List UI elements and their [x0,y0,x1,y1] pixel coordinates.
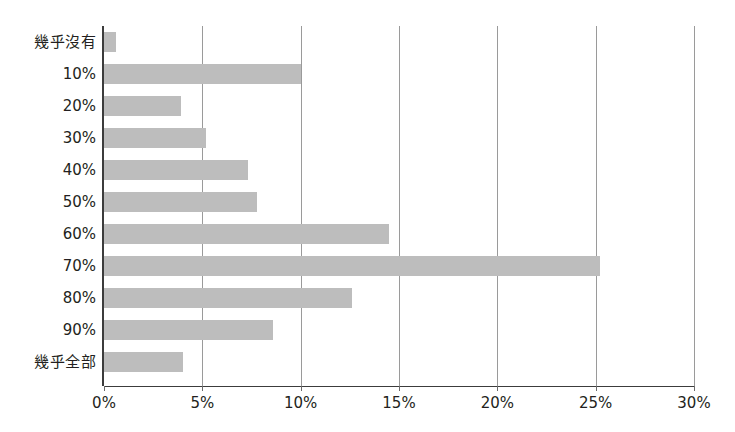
y-axis-label: 40% [0,154,96,186]
gridline [596,26,597,386]
plot-area [104,26,694,386]
y-axis-label: 30% [0,122,96,154]
x-axis-label: 5% [167,394,237,412]
y-axis-label: 50% [0,186,96,218]
y-axis-label: 10% [0,58,96,90]
bar[interactable] [104,256,600,276]
gridline [301,26,302,386]
x-axis-label: 25% [561,394,631,412]
x-axis-tick [694,386,695,391]
y-axis-label: 60% [0,218,96,250]
y-axis-label: 幾乎全部 [0,346,96,378]
x-axis-label: 15% [364,394,434,412]
bar[interactable] [104,128,206,148]
x-axis-tick [301,386,302,391]
x-axis-label: 20% [462,394,532,412]
gridline [497,26,498,386]
y-axis-label: 20% [0,90,96,122]
bar[interactable] [104,160,248,180]
y-axis-label: 90% [0,314,96,346]
bar-chart: 幾乎沒有10%20%30%40%50%60%70%80%90%幾乎全部 0%5%… [0,0,735,432]
bar[interactable] [104,320,273,340]
x-axis-label: 30% [659,394,729,412]
x-axis-label: 10% [266,394,336,412]
x-axis-tick [399,386,400,391]
x-axis-tick [596,386,597,391]
bar[interactable] [104,32,116,52]
bar[interactable] [104,288,352,308]
gridline [694,26,695,386]
y-axis-label: 幾乎沒有 [0,26,96,58]
bar[interactable] [104,224,389,244]
bar[interactable] [104,352,183,372]
bar[interactable] [104,192,257,212]
x-axis-tick [202,386,203,391]
gridline [399,26,400,386]
y-axis-label: 80% [0,282,96,314]
y-axis-label: 70% [0,250,96,282]
x-axis-tick [497,386,498,391]
bar[interactable] [104,64,301,84]
x-axis-label: 0% [69,394,139,412]
bar[interactable] [104,96,181,116]
x-axis-tick [104,386,105,391]
